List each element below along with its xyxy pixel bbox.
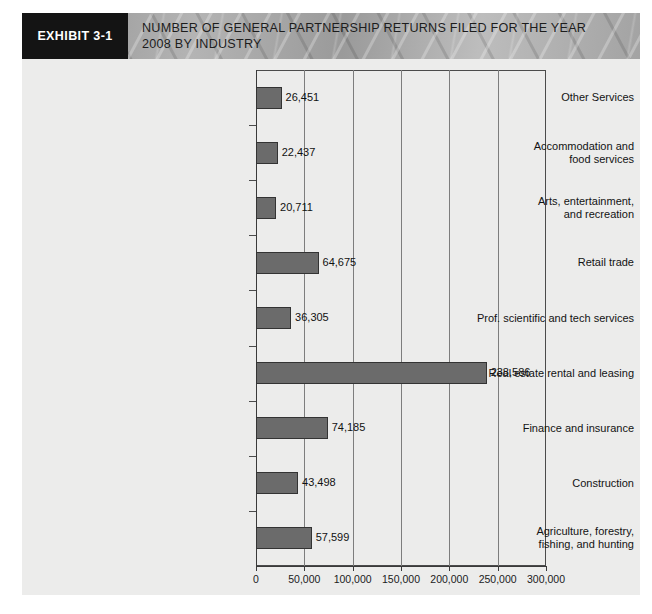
category-label: Accommodation andfood services: [414, 140, 640, 166]
y-axis-tick: [249, 180, 256, 181]
bar-value-label: 26,451: [286, 91, 320, 103]
gridline: [353, 70, 354, 566]
category-label-line: Agriculture, forestry,: [414, 525, 634, 538]
bar: [256, 142, 278, 164]
y-axis-tick: [249, 235, 256, 236]
bar-value-label: 64,675: [323, 256, 357, 268]
source-caption: [22, 604, 642, 614]
x-axis-tick-label: 300,000: [527, 573, 565, 585]
bar: [256, 472, 298, 494]
category-label: Other Services: [414, 91, 640, 104]
gridline: [401, 70, 402, 566]
exhibit-number-label: EXHIBIT 3-1: [37, 29, 112, 43]
bar-value-label: 20,711: [280, 201, 313, 213]
category-label-line: Arts, entertainment,: [414, 195, 634, 208]
x-axis-tick-label: 250,000: [479, 573, 517, 585]
bar-value-label: 22,437: [282, 146, 316, 158]
category-label: Real estate rental and leasing: [414, 367, 640, 380]
bar: [256, 307, 291, 329]
x-axis-tick-label: 100,000: [334, 573, 372, 585]
category-label: Finance and insurance: [414, 422, 640, 435]
x-axis-tick: [304, 566, 305, 571]
exhibit-title-line-2: 2008 BY INDUSTRY: [142, 36, 612, 52]
x-axis-tick: [401, 566, 402, 571]
bar-value-label: 74,185: [332, 421, 366, 433]
category-label: Construction: [414, 477, 640, 490]
chart-figure: 050,000100,000150,000200,000250,000300,0…: [22, 59, 640, 595]
category-label: Retail trade: [414, 256, 640, 269]
category-label-line: Retail trade: [414, 256, 634, 269]
category-label-line: Finance and insurance: [414, 422, 634, 435]
x-axis-tick: [546, 566, 547, 571]
y-axis-tick: [249, 401, 256, 402]
y-axis-tick: [249, 346, 256, 347]
category-label: Agriculture, forestry,fishing, and hunti…: [414, 525, 640, 551]
x-axis-tick-label: 0: [253, 573, 259, 585]
x-axis-tick: [256, 566, 257, 571]
bar-value-label: 57,599: [316, 531, 350, 543]
x-axis-tick: [449, 566, 450, 571]
y-axis-tick: [249, 125, 256, 126]
category-label-line: Real estate rental and leasing: [414, 367, 634, 380]
bar: [256, 197, 276, 219]
x-axis-tick-label: 200,000: [430, 573, 468, 585]
exhibit-title-line-1: NUMBER OF GENERAL PARTNERSHIP RETURNS FI…: [142, 20, 612, 36]
bar: [256, 417, 328, 439]
exhibit-title: NUMBER OF GENERAL PARTNERSHIP RETURNS FI…: [142, 20, 612, 52]
bar: [256, 252, 319, 274]
category-label-line: Other Services: [414, 91, 634, 104]
category-label-line: Prof. scientific and tech services: [414, 312, 634, 325]
category-label: Prof. scientific and tech services: [414, 312, 640, 325]
bar: [256, 87, 282, 109]
y-axis-tick: [249, 290, 256, 291]
exhibit-number-badge: EXHIBIT 3-1: [22, 13, 128, 59]
y-axis-tick: [249, 511, 256, 512]
y-axis-tick: [249, 456, 256, 457]
category-label-line: fishing, and hunting: [414, 538, 634, 551]
exhibit-header-banner: EXHIBIT 3-1 NUMBER OF GENERAL PARTNERSHI…: [22, 13, 640, 59]
bar-value-label: 36,305: [295, 311, 329, 323]
x-axis-tick: [353, 566, 354, 571]
category-label-line: food services: [414, 153, 634, 166]
category-label: Arts, entertainment,and recreation: [414, 195, 640, 221]
x-axis-tick-label: 150,000: [382, 573, 420, 585]
category-label-line: Construction: [414, 477, 634, 490]
bar-value-label: 43,498: [302, 476, 336, 488]
x-axis-tick-label: 50,000: [288, 573, 320, 585]
category-label-line: and recreation: [414, 208, 634, 221]
category-label-line: Accommodation and: [414, 140, 634, 153]
x-axis-tick: [498, 566, 499, 571]
bar: [256, 527, 312, 549]
